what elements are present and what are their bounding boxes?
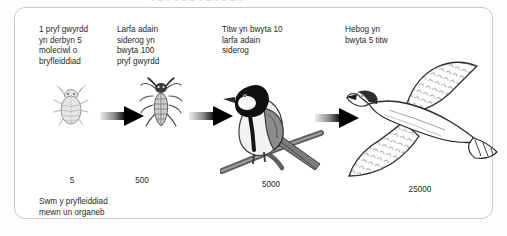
arrow-stage-3-to-4 xyxy=(315,106,359,130)
amount-stage-2: 500 xyxy=(124,176,160,186)
amount-stage-4: 25000 xyxy=(397,185,443,195)
hawk-icon xyxy=(345,60,505,188)
clipped-text-above: y g y y g p y g y p p y xyxy=(0,0,507,1)
stage-caption-1: 1 pryf gwyrdd yn derbyn 5 moleciwl o bry… xyxy=(39,25,125,67)
arrow-stage-2-to-3 xyxy=(189,104,233,128)
stage-caption-3: Titw yn bwyta 10 larfa adain siderog xyxy=(222,25,330,57)
aphid-icon xyxy=(51,82,91,128)
arrow-stage-1-to-2 xyxy=(100,104,144,128)
amount-stage-1: 5 xyxy=(59,176,85,186)
larva-icon xyxy=(137,76,185,132)
stage-caption-2: Larfa adain siderog yn bwyta 100 pryf gw… xyxy=(117,25,203,67)
bottom-caption: Swm y pryfleiddiad mewn un organeb xyxy=(39,197,199,218)
figure-frame: 1 pryf gwyrdd yn derbyn 5 moleciwl o bry… xyxy=(14,7,493,219)
amount-stage-3: 5000 xyxy=(251,180,291,190)
tit-bird-icon xyxy=(220,78,325,178)
stage-caption-4: Hebog yn bwyta 5 titw xyxy=(345,25,445,46)
diagram-page: y g y y g p y g y p p y 1 pryf gwyrdd yn… xyxy=(0,0,507,236)
